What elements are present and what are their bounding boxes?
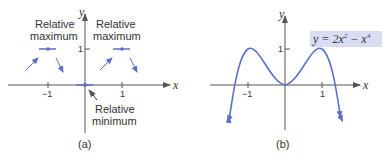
right-max-label-1: Relative bbox=[96, 18, 136, 30]
equation-exp2: 4 bbox=[367, 32, 371, 40]
min-label-2: minimum bbox=[92, 115, 137, 127]
equation-label: y = 2x2 − x4 bbox=[310, 31, 382, 47]
y-axis-label: y bbox=[278, 7, 285, 21]
tick-label-y-1: 1 bbox=[78, 44, 83, 54]
increasing-arrow-left bbox=[26, 58, 38, 70]
curve-left-tail bbox=[228, 117, 230, 121]
min-pointer-arrow bbox=[89, 90, 97, 100]
x-axis-label: x bbox=[362, 78, 369, 92]
tick-label-x-1: 1 bbox=[120, 89, 125, 99]
curve-right-tail bbox=[341, 117, 343, 121]
y-axis-label: y bbox=[78, 5, 85, 19]
svg-text:y = 2x2 − x4: y = 2x2 − x4 bbox=[312, 32, 371, 46]
left-max-label-2: maximum bbox=[30, 30, 78, 42]
panel-b: x y −1 1 1 y = 2x2 − x4 (b) bbox=[210, 7, 382, 150]
equation-mid: − x bbox=[347, 32, 367, 46]
decreasing-arrow-right bbox=[130, 58, 137, 72]
min-label-1: Relative bbox=[95, 103, 135, 115]
right-max-label-2: maximum bbox=[93, 30, 141, 42]
caption-b: (b) bbox=[276, 138, 289, 150]
right-max-marker bbox=[113, 47, 130, 51]
figure-canvas: x y −1 1 1 Relative maximum bbox=[0, 0, 385, 160]
left-max-label-1: Relative bbox=[35, 18, 75, 30]
left-max-marker bbox=[39, 47, 56, 51]
x-axis-label: x bbox=[172, 78, 179, 92]
equation-lhs: y = 2x bbox=[312, 32, 344, 46]
increasing-arrow-right bbox=[100, 58, 112, 70]
tick-label-y-1: 1 bbox=[278, 44, 283, 54]
decreasing-arrow-left bbox=[56, 58, 63, 72]
tick-label-x-1: 1 bbox=[320, 89, 325, 99]
panel-a: x y −1 1 1 Relative maximum bbox=[8, 5, 179, 150]
caption-a: (a) bbox=[78, 138, 91, 150]
tick-label-x-neg1: −1 bbox=[42, 89, 52, 99]
min-marker bbox=[76, 83, 93, 87]
tick-label-x-neg1: −1 bbox=[242, 89, 252, 99]
